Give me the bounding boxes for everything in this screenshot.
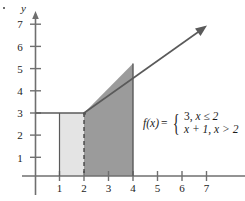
x-tick-label-4: 4 bbox=[125, 182, 141, 194]
formula-case-1-expression: 3, bbox=[184, 110, 193, 122]
formula-case-row-2: x + 1, x > 2 bbox=[184, 123, 239, 136]
x-tick-label-5: 5 bbox=[150, 182, 166, 194]
y-tick-label-1: 1 bbox=[12, 152, 28, 164]
dark-shaded-trapezoid bbox=[84, 64, 133, 177]
y-tick-label-5: 5 bbox=[12, 63, 28, 75]
breakpoint-dot bbox=[83, 112, 86, 115]
piecewise-function-figure: y 1 2 3 4 5 6 7 1 2 3 4 5 6 7 f(x) = { 3… bbox=[0, 0, 245, 201]
linear-piece-arrowhead bbox=[195, 26, 207, 37]
formula-function-name: f(x) bbox=[143, 117, 159, 129]
linear-piece-line bbox=[84, 30, 201, 113]
plot-canvas bbox=[0, 0, 245, 201]
y-tick-label-4: 4 bbox=[12, 85, 28, 97]
x-tick-label-1: 1 bbox=[52, 182, 68, 194]
formula-case-row-1: 3, x ≤ 2 bbox=[184, 110, 239, 123]
formula-case-2-expression: x + 1, bbox=[184, 123, 211, 135]
light-shaded-rectangle bbox=[60, 113, 85, 176]
y-axis-label: y bbox=[21, 2, 26, 14]
formula-cases: 3, x ≤ 2 x + 1, x > 2 bbox=[184, 110, 239, 136]
formula-case-1-condition: x ≤ 2 bbox=[195, 110, 218, 122]
y-tick-label-6: 6 bbox=[12, 41, 28, 53]
x-tick-label-7: 7 bbox=[199, 182, 215, 194]
x-tick-label-3: 3 bbox=[101, 182, 117, 194]
formula-case-2-condition: x > 2 bbox=[214, 123, 238, 135]
y-tick-label-2: 2 bbox=[12, 129, 28, 141]
y-tick-label-3: 3 bbox=[12, 107, 28, 119]
piecewise-formula: f(x) = { 3, x ≤ 2 x + 1, x > 2 bbox=[143, 110, 238, 136]
formula-brace: { bbox=[173, 118, 180, 128]
y-axis-arrowhead bbox=[32, 11, 39, 19]
x-tick-label-6: 6 bbox=[174, 182, 190, 194]
formula-equals-sign: = bbox=[161, 117, 168, 129]
x-tick-label-2: 2 bbox=[76, 182, 92, 194]
y-tick-label-7: 7 bbox=[12, 18, 28, 30]
